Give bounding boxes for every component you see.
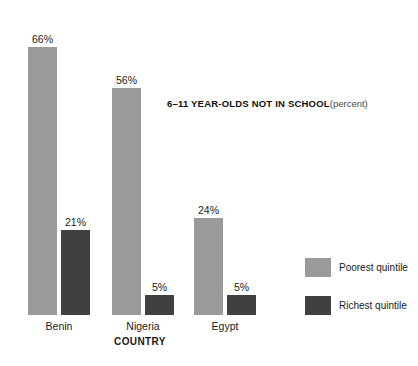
bar-nigeria-richest: [145, 295, 174, 315]
legend-label-richest: Richest quintile: [339, 300, 407, 312]
bar-value-benin-poorest: 66%: [22, 33, 63, 45]
bar-chart: 66%21%Benin56%5%Nigeria24%5%Egypt 6–11 Y…: [0, 0, 418, 366]
bar-value-nigeria-poorest: 56%: [106, 74, 147, 86]
x-axis-title: COUNTRY: [0, 336, 280, 347]
bar-value-egypt-poorest: 24%: [188, 204, 229, 216]
bar-egypt-richest: [227, 295, 256, 315]
bar-value-egypt-richest: 5%: [221, 281, 262, 293]
bar-benin-richest: [61, 230, 90, 315]
chart-title: 6–11 YEAR-OLDS NOT IN SCHOOL(percent): [167, 98, 368, 110]
x-tick-label-nigeria: Nigeria: [98, 320, 188, 333]
bar-value-nigeria-richest: 5%: [139, 281, 180, 293]
chart-title-main: 6–11 YEAR-OLDS NOT IN SCHOOL: [167, 98, 330, 109]
chart-title-unit: (percent): [330, 98, 368, 109]
bar-value-benin-richest: 21%: [55, 216, 96, 228]
bar-nigeria-poorest: [112, 88, 141, 315]
bar-benin-poorest: [28, 47, 57, 315]
legend-label-poorest: Poorest quintile: [339, 262, 408, 274]
legend-swatch-poorest-icon: [305, 258, 331, 277]
legend-swatch-richest-icon: [305, 296, 331, 315]
x-tick-label-benin: Benin: [14, 320, 104, 333]
x-tick-label-egypt: Egypt: [180, 320, 270, 333]
bar-egypt-poorest: [194, 218, 223, 315]
